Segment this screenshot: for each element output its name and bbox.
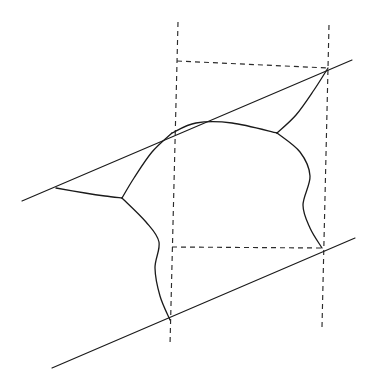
geometric-diagram [0,0,370,389]
figure-container [0,0,370,389]
canvas-background [0,0,370,389]
